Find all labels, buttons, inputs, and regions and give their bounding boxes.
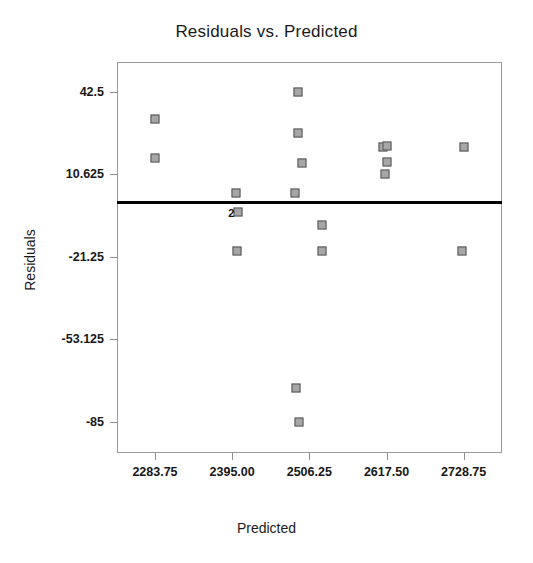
zero-reference-line xyxy=(117,201,502,204)
overlap-count-label: 2 xyxy=(228,207,234,219)
data-point-marker xyxy=(317,221,326,230)
plot-area: 2 xyxy=(117,62,502,453)
data-point-marker xyxy=(150,114,159,123)
data-point-marker xyxy=(294,87,303,96)
y-axis-tick-label: -53.125 xyxy=(0,332,104,346)
x-axis-tick xyxy=(464,453,465,460)
data-point-marker xyxy=(459,143,468,152)
x-axis-tick-label: 2395.00 xyxy=(210,465,255,479)
y-axis-tick xyxy=(110,422,117,423)
data-point-marker xyxy=(295,417,304,426)
data-point-marker xyxy=(382,157,391,166)
data-point-marker xyxy=(382,142,391,151)
data-point-marker xyxy=(294,129,303,138)
x-axis-tick-label: 2283.75 xyxy=(132,465,177,479)
chart-title: Residuals vs. Predicted xyxy=(0,22,533,42)
x-axis-tick-label: 2617.50 xyxy=(364,465,409,479)
x-axis-tick xyxy=(387,453,388,460)
x-axis-tick-label: 2728.75 xyxy=(441,465,486,479)
y-axis-tick xyxy=(110,257,117,258)
data-point-marker xyxy=(291,384,300,393)
chart-screenshot: Residuals vs. Predicted 42.510.625-21.25… xyxy=(0,0,533,563)
x-axis-tick xyxy=(232,453,233,460)
data-point-marker xyxy=(150,153,159,162)
data-point-marker xyxy=(458,247,467,256)
data-point-marker xyxy=(380,170,389,179)
y-axis-tick-label: 42.5 xyxy=(0,85,104,99)
data-point-marker xyxy=(234,208,243,217)
y-axis-tick xyxy=(110,339,117,340)
data-point-marker xyxy=(317,247,326,256)
y-axis-tick-label: -85 xyxy=(0,415,104,429)
y-axis-tick-label: -21.25 xyxy=(0,250,104,264)
y-axis-tick-label: 10.625 xyxy=(0,167,104,181)
data-point-marker xyxy=(291,188,300,197)
y-axis-title: Residuals xyxy=(22,205,38,315)
data-point-marker xyxy=(298,158,307,167)
y-axis-tick xyxy=(110,92,117,93)
x-axis-tick xyxy=(155,453,156,460)
y-axis-tick xyxy=(110,174,117,175)
x-axis-title: Predicted xyxy=(0,520,533,536)
data-point-marker xyxy=(233,247,242,256)
x-axis-tick xyxy=(309,453,310,460)
data-point-marker xyxy=(232,188,241,197)
x-axis-tick-label: 2506.25 xyxy=(287,465,332,479)
